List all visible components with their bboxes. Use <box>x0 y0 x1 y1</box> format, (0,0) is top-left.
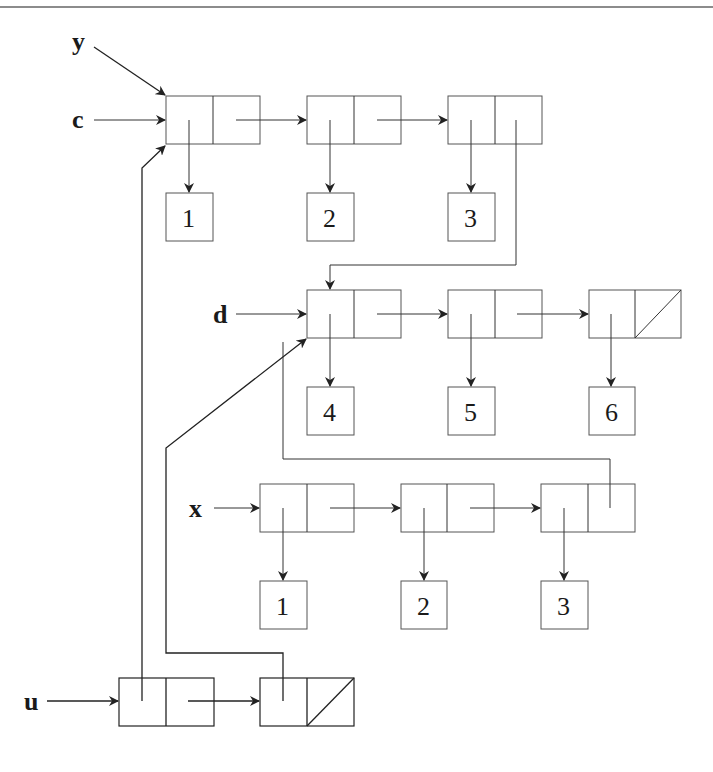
list-x <box>260 342 635 629</box>
c-value-3: 3 <box>464 204 477 233</box>
d-value-3: 6 <box>605 398 618 427</box>
linked-list-diagram: y c d x u 1 2 3 4 5 6 1 2 3 <box>0 0 713 772</box>
d-value-2: 5 <box>464 398 477 427</box>
c-value-2: 2 <box>323 204 336 233</box>
list-c <box>166 96 542 289</box>
var-label-x: x <box>189 494 202 523</box>
list-d <box>307 290 681 435</box>
d-value-1: 4 <box>323 398 336 427</box>
var-label-d: d <box>213 300 228 329</box>
arrow-y-to-c <box>94 47 165 95</box>
x-value-1: 1 <box>276 592 289 621</box>
var-label-c: c <box>72 105 84 134</box>
x-value-2: 2 <box>417 592 430 621</box>
arrow-u1-to-c <box>142 146 165 701</box>
c-value-1: 1 <box>182 204 195 233</box>
var-label-y: y <box>72 27 85 56</box>
var-label-u: u <box>24 687 38 716</box>
x-value-3: 3 <box>557 592 570 621</box>
